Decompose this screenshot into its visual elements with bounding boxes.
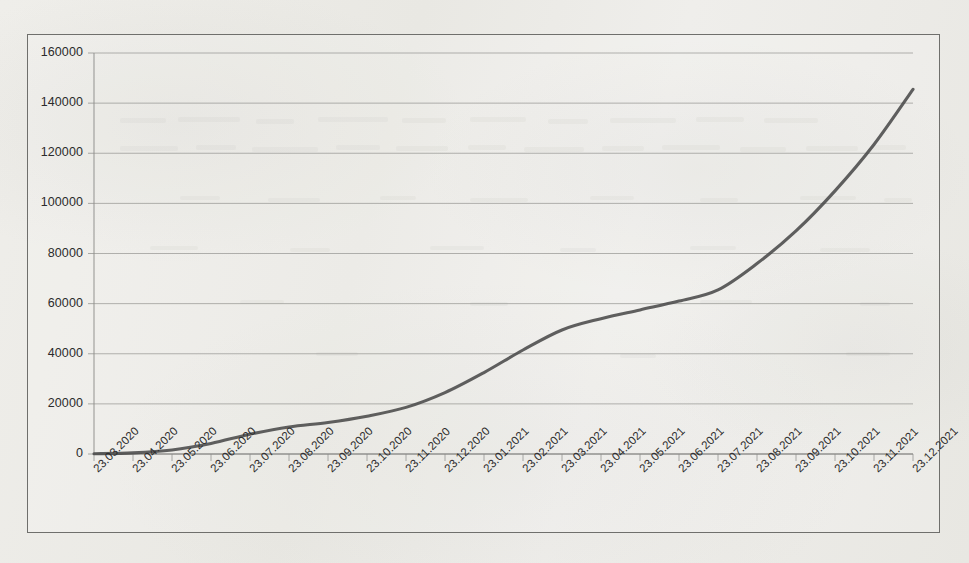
y-axis-tick-label: 40000 <box>48 346 83 360</box>
data-series-line <box>94 89 913 453</box>
y-axis-tick-label: 160000 <box>41 45 83 59</box>
chart-frame: 0200004000060000800001000001200001400001… <box>27 34 940 533</box>
y-axis-tick-label: 80000 <box>48 246 83 260</box>
y-axis-tick-label: 120000 <box>41 145 83 159</box>
y-axis-tick-label: 60000 <box>48 296 83 310</box>
y-axis-tick-label: 20000 <box>48 396 83 410</box>
y-axis-ticks <box>88 53 94 454</box>
gridlines <box>94 53 913 454</box>
y-axis-tick-label: 140000 <box>41 95 83 109</box>
y-axis-tick-label: 100000 <box>41 195 83 209</box>
y-axis-tick-label: 0 <box>76 446 83 460</box>
